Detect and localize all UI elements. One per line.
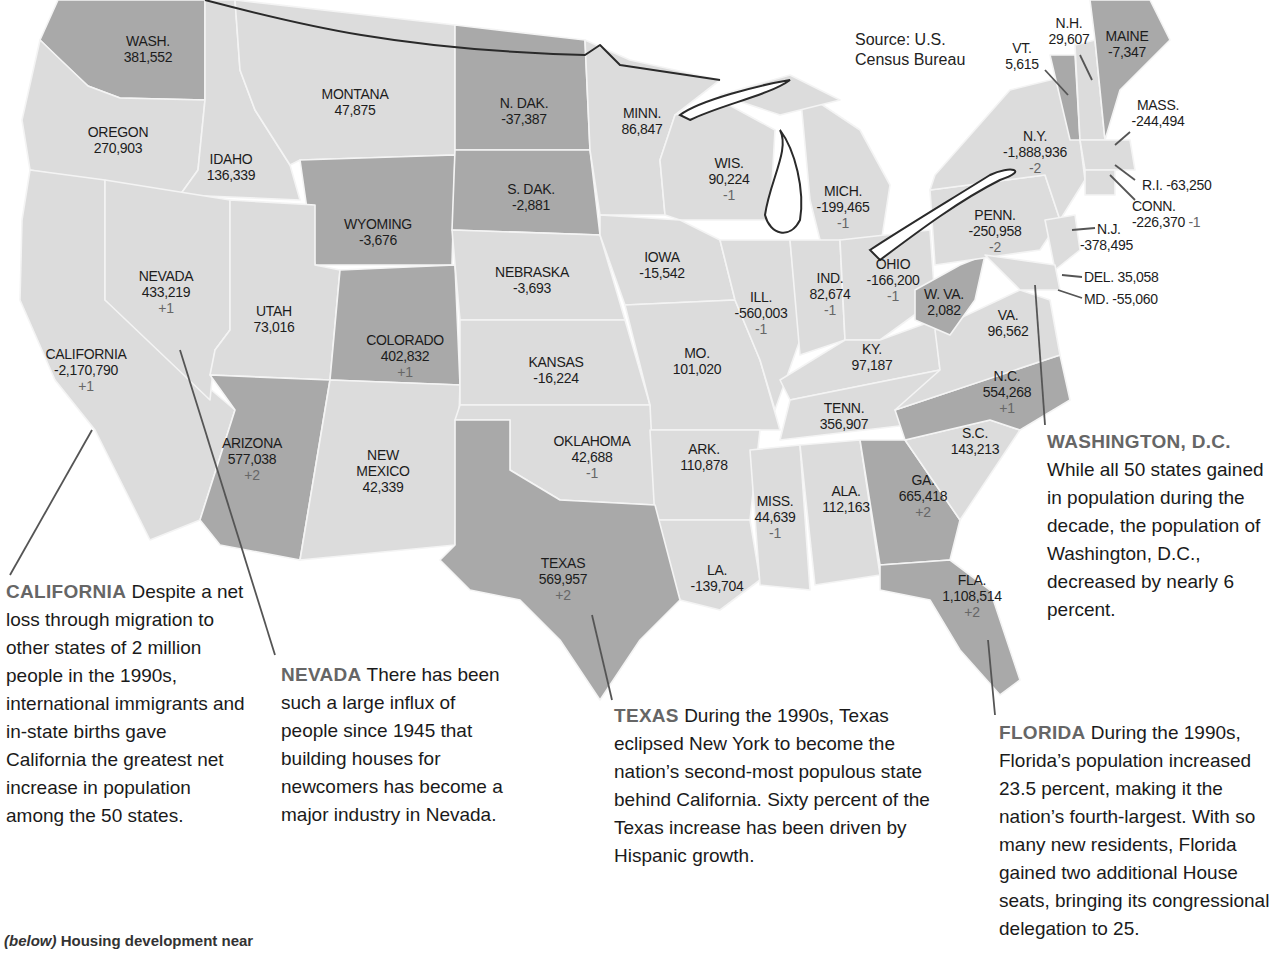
label-michigan: MICH.-199,465-1 bbox=[817, 183, 870, 231]
label-california: CALIFORNIA-2,170,790+1 bbox=[45, 346, 126, 394]
label-arkansas: ARK.110,878 bbox=[680, 441, 727, 473]
caption-california: CALIFORNIA Despite a net loss through mi… bbox=[6, 578, 251, 830]
label-texas: TEXAS569,957+2 bbox=[539, 555, 588, 603]
label-missouri: MO.101,020 bbox=[673, 345, 722, 377]
label-south-carolina: S.C.143,213 bbox=[951, 425, 1000, 457]
label-montana: MONTANA47,875 bbox=[322, 86, 389, 118]
label-ohio: OHIO-166,200-1 bbox=[867, 256, 920, 304]
label-new-jersey: N.J. -378,495 bbox=[1080, 221, 1133, 253]
label-new-york: N.Y.-1,888,936-2 bbox=[1003, 128, 1067, 176]
label-mississippi: MISS.44,639-1 bbox=[754, 493, 795, 541]
label-idaho: IDAHO136,339 bbox=[207, 151, 256, 183]
label-new-mexico: NEW MEXICO42,339 bbox=[348, 447, 418, 495]
leader-md bbox=[1058, 290, 1082, 298]
photo-caption: (below) Housing development near bbox=[4, 930, 253, 952]
label-vermont: VT.5,615 bbox=[1005, 40, 1039, 72]
label-massachusetts: MASS.-244,494 bbox=[1132, 97, 1185, 129]
label-colorado: COLORADO402,832+1 bbox=[366, 332, 444, 380]
label-florida: FLA.1,108,514+2 bbox=[942, 572, 1002, 620]
label-georgia: GA.665,418+2 bbox=[899, 472, 948, 520]
state-massachusetts bbox=[1080, 140, 1135, 170]
label-delaware: DEL. 35,058 bbox=[1084, 269, 1159, 285]
label-pennsylvania: PENN.-250,958-2 bbox=[969, 207, 1022, 255]
leader-california bbox=[10, 430, 92, 575]
label-nevada: NEVADA433,219+1 bbox=[139, 268, 194, 316]
caption-florida: FLORIDA During the 1990s, Florida’s popu… bbox=[999, 719, 1274, 943]
state-delaware-maryland bbox=[985, 255, 1060, 290]
caption-texas: TEXAS During the 1990s, Texas eclipsed N… bbox=[614, 702, 944, 870]
label-rhode-island: R.I. -63,250 bbox=[1142, 177, 1212, 193]
label-kansas: KANSAS-16,224 bbox=[529, 354, 584, 386]
label-maine: MAINE-7,347 bbox=[1106, 28, 1149, 60]
label-utah: UTAH73,016 bbox=[253, 303, 294, 335]
label-north-dakota: N. DAK.-37,387 bbox=[500, 95, 548, 127]
label-iowa: IOWA-15,542 bbox=[639, 249, 684, 281]
state-north-dakota bbox=[455, 25, 590, 150]
label-south-dakota: S. DAK.-2,881 bbox=[507, 181, 555, 213]
label-wisconsin: WIS.90,224-1 bbox=[708, 155, 749, 203]
label-kentucky: KY.97,187 bbox=[851, 341, 892, 373]
label-oklahoma: OKLAHOMA42,688-1 bbox=[554, 433, 631, 481]
label-arizona: ARIZONA577,038+2 bbox=[222, 435, 282, 483]
source-line-1: Source: U.S. bbox=[855, 30, 965, 50]
label-illinois: ILL.-560,003-1 bbox=[735, 289, 788, 337]
caption-nevada: NEVADA There has been such a large influ… bbox=[281, 661, 506, 829]
leader-del bbox=[1062, 275, 1082, 277]
label-virginia: VA.96,562 bbox=[987, 307, 1028, 339]
label-tennessee: TENN.356,907 bbox=[820, 400, 869, 432]
label-north-carolina: N.C.554,268+1 bbox=[983, 368, 1032, 416]
label-louisiana: LA.-139,704 bbox=[691, 562, 744, 594]
label-wyoming: WYOMING-3,676 bbox=[344, 216, 412, 248]
label-west-virginia: W. VA.2,082 bbox=[921, 286, 967, 318]
label-minnesota: MINN.86,847 bbox=[621, 105, 662, 137]
state-wyoming bbox=[300, 155, 455, 265]
label-oregon: OREGON270,903 bbox=[88, 124, 148, 156]
caption-washington-dc: WASHINGTON, D.C. While all 50 states gai… bbox=[1047, 428, 1272, 624]
label-connecticut: CONN. -226,370 -1 bbox=[1132, 198, 1200, 230]
state-new-jersey bbox=[1045, 215, 1080, 270]
label-alabama: ALA.112,163 bbox=[822, 483, 869, 515]
label-nebraska: NEBRASKA-3,693 bbox=[495, 264, 569, 296]
label-washington: WASH.381,552 bbox=[124, 33, 173, 65]
source-note: Source: U.S. Census Bureau bbox=[855, 30, 965, 70]
label-indiana: IND.82,674-1 bbox=[809, 270, 850, 318]
state-connecticut bbox=[1085, 170, 1115, 195]
source-line-2: Census Bureau bbox=[855, 50, 965, 70]
label-maryland: MD. -55,060 bbox=[1084, 291, 1158, 307]
label-new-hampshire: N.H.29,607 bbox=[1048, 15, 1089, 47]
